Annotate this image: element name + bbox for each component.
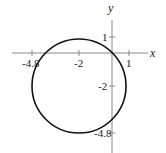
y-axis-label: y <box>107 1 114 15</box>
y-tick-label-1: 1 <box>102 31 108 43</box>
x-tick-label-1: 1 <box>126 57 132 69</box>
y-tick-label-neg2: -2 <box>98 80 107 92</box>
x-axis-label: x <box>149 46 156 60</box>
x-tick-label-neg48: -4.8 <box>22 57 40 69</box>
chart: x y -4.8 -2 1 1 -2 -4.8 <box>0 0 166 153</box>
y-tick-label-neg48: -4.8 <box>94 127 112 139</box>
x-tick-label-neg2: -2 <box>74 57 83 69</box>
